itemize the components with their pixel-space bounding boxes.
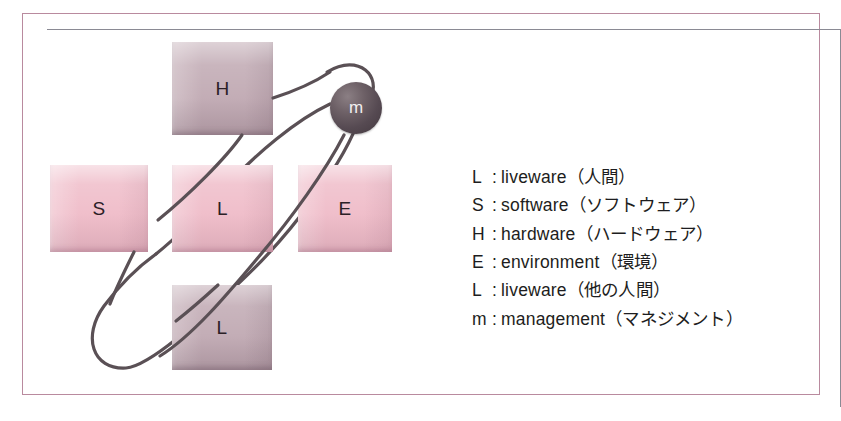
curve-h-to-sl-gap xyxy=(158,135,242,220)
legend-term-liveware: liveware xyxy=(501,163,567,191)
connector-curves-over xyxy=(30,20,430,388)
shell-model-diagram: H S L E L xyxy=(30,20,430,388)
legend-japanese-environment: （環境） xyxy=(600,248,669,276)
legend-item-software: S : software （ソフトウェア） xyxy=(472,191,802,219)
legend-item-environment: E : environment （環境） xyxy=(472,248,802,276)
legend-separator-4: : xyxy=(488,248,501,276)
legend-item-liveware-other: L : liveware （他の人間） xyxy=(472,276,802,304)
curve-m-to-bottom-left xyxy=(160,135,344,356)
legend-term-hardware: hardware xyxy=(501,220,576,248)
legend: L : liveware （人間） S : software （ソフトウェア） … xyxy=(472,163,802,333)
legend-key-s: S xyxy=(472,191,488,219)
legend-key-h: H xyxy=(472,220,488,248)
legend-key-m: m xyxy=(472,305,488,333)
legend-japanese-management: （マネジメント） xyxy=(605,305,743,333)
legend-japanese-hardware: （ハードウェア） xyxy=(576,220,714,248)
legend-japanese-liveware-other: （他の人間） xyxy=(567,276,670,304)
curve-s-bottom-stub xyxy=(110,252,134,304)
legend-item-hardware: H : hardware （ハードウェア） xyxy=(472,220,802,248)
curve-over-bottom-l xyxy=(176,285,218,321)
legend-separator-5: : xyxy=(488,276,501,304)
legend-term-software: software xyxy=(501,191,569,219)
legend-separator-6: : xyxy=(488,305,501,333)
legend-separator-1: : xyxy=(488,163,501,191)
node-management-label: m xyxy=(349,98,363,118)
legend-term-environment: environment xyxy=(501,248,600,276)
legend-key-l2: L xyxy=(472,276,488,304)
curve-h-to-m xyxy=(273,72,330,98)
legend-separator-3: : xyxy=(488,220,501,248)
legend-term-liveware-other: liveware xyxy=(501,276,567,304)
legend-item-management: m : management （マネジメント） xyxy=(472,305,802,333)
legend-separator-2: : xyxy=(488,191,501,219)
legend-japanese-liveware: （人間） xyxy=(567,163,636,191)
legend-key-l1: L xyxy=(472,163,488,191)
legend-item-liveware: L : liveware （人間） xyxy=(472,163,802,191)
legend-key-e: E xyxy=(472,248,488,276)
legend-japanese-software: （ソフトウェア） xyxy=(569,191,707,219)
legend-term-management: management xyxy=(501,305,605,333)
node-management[interactable]: m xyxy=(330,82,382,134)
